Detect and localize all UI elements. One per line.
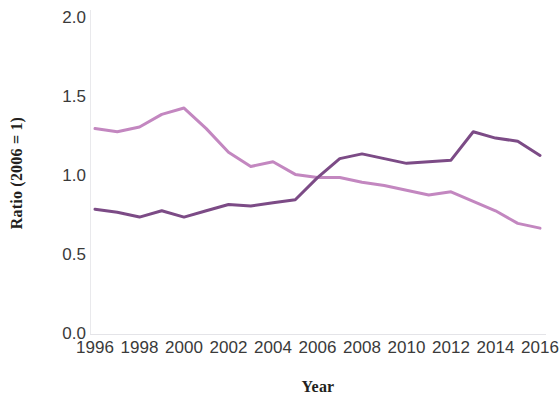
x-axis-tick-labels: 1996199820002002200420062008201020122014…: [90, 338, 546, 362]
x-tick-label: 2014: [477, 338, 515, 358]
x-tick-label: 1996: [76, 338, 114, 358]
x-axis-title: Year: [90, 378, 546, 396]
y-axis-title: Ratio (2006 = 1): [0, 0, 34, 345]
y-tick-label: 1.0: [40, 167, 86, 184]
x-tick-label: 2010: [388, 338, 426, 358]
plot-area: [90, 10, 545, 335]
y-tick-label: 1.5: [40, 88, 86, 105]
y-axis-title-text: Ratio (2006 = 1): [8, 116, 26, 228]
x-tick-label: 2016: [521, 338, 559, 358]
x-tick-label: 1998: [121, 338, 159, 358]
x-tick-label: 2002: [210, 338, 248, 358]
x-tick-label: 2008: [343, 338, 381, 358]
series-line-dark-purple-series: [95, 132, 540, 217]
y-tick-label: 0.5: [40, 246, 86, 263]
y-tick-label: 2.0: [40, 9, 86, 26]
x-tick-label: 2006: [299, 338, 337, 358]
y-axis-tick-labels: 0.00.51.01.52.0: [34, 0, 86, 345]
x-tick-label: 2004: [254, 338, 292, 358]
x-tick-label: 2000: [165, 338, 203, 358]
x-tick-label: 2012: [432, 338, 470, 358]
plot-svg: [90, 10, 545, 335]
